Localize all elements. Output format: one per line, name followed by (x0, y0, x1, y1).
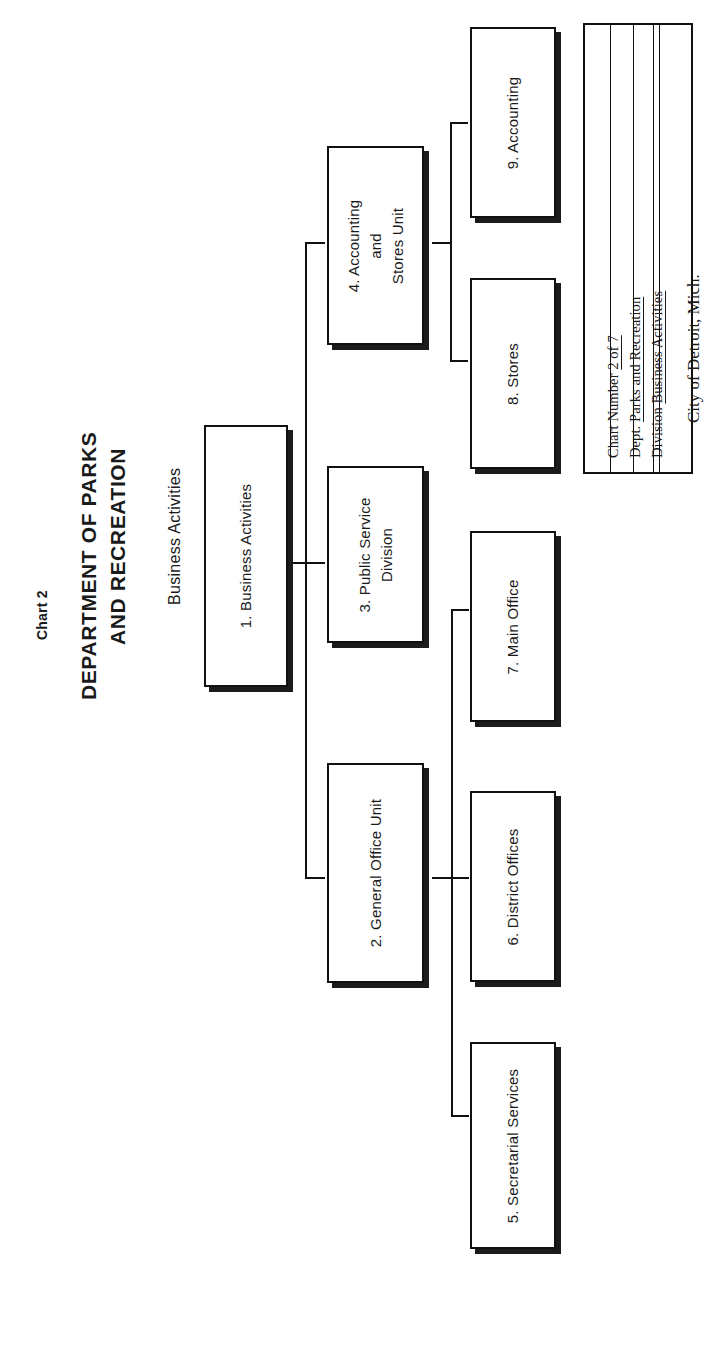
subtitle: Business Activities (166, 468, 184, 605)
connector-node2-stub (432, 877, 453, 879)
legend-dept-row: Dept. Parks and Recreation (627, 297, 644, 458)
connector-to-node-3 (305, 562, 325, 564)
node-7-main-office[interactable]: 7. Main Office (470, 531, 556, 722)
node-9-accounting[interactable]: 9. Accounting (470, 27, 556, 218)
legend-division-value: Business Activities (649, 291, 665, 404)
node-5-text: 5. Secretarial Services (502, 1068, 524, 1223)
connector-trunk-node4 (450, 122, 452, 362)
legend-division-row: Division Business Activities (649, 291, 666, 458)
node-9-line-1: 9. Accounting (502, 76, 524, 169)
node-4-text: 4. Accounting and Stores Unit (343, 199, 408, 292)
connector-trunk-level1 (305, 242, 307, 879)
legend-chart-number-row: Chart Number 2 of 7 (605, 335, 622, 458)
legend-city: City of Detroit, Mich. (684, 274, 704, 423)
connector-to-node-9 (450, 122, 468, 124)
legend-dept-label: Dept. (627, 426, 643, 458)
chart-label: Chart 2 (34, 590, 50, 640)
node-6-line-1: 6. District Offices (502, 828, 524, 945)
legend-dept-value: Parks and Recreation (627, 297, 643, 422)
connector-trunk-node2 (451, 609, 453, 1117)
node-3-line-2: Division (376, 497, 398, 612)
node-1-line-1: 1. Business Activities (235, 484, 257, 628)
node-8-line-1: 8. Stores (502, 343, 524, 405)
node-5-secretarial-services[interactable]: 5. Secretarial Services (470, 1042, 556, 1249)
connector-to-node-4 (305, 242, 325, 244)
legend-block: Chart Number 2 of 7 Dept. Parks and Recr… (583, 23, 693, 474)
node-2-text: 2. General Office Unit (365, 799, 387, 947)
node-5-line-1: 5. Secretarial Services (502, 1068, 524, 1223)
legend-division-label: Division (649, 407, 665, 458)
node-3-public-service-division[interactable]: 3. Public Service Division (327, 466, 424, 643)
connector-to-node-6 (451, 877, 469, 879)
node-1-text: 1. Business Activities (235, 484, 257, 628)
node-3-line-1: 3. Public Service (354, 497, 376, 612)
node-8-text: 8. Stores (502, 343, 524, 405)
connector-node4-stub (432, 242, 452, 244)
connector-to-node-7 (451, 609, 469, 611)
legend-chart-number-label: Chart Number (605, 373, 621, 458)
connector-to-node-8 (450, 360, 468, 362)
connector-to-node-5 (451, 1115, 469, 1117)
legend-chart-number-value: 2 of 7 (605, 335, 621, 369)
connector-to-node-2 (305, 877, 325, 879)
page-title-line-2: AND RECREATION (106, 448, 130, 645)
page-title-line-1: DEPARTMENT OF PARKS (77, 432, 101, 700)
node-6-district-offices[interactable]: 6. District Offices (470, 791, 556, 982)
node-3-text: 3. Public Service Division (354, 497, 398, 612)
node-9-text: 9. Accounting (502, 76, 524, 169)
node-6-text: 6. District Offices (502, 828, 524, 945)
node-8-stores[interactable]: 8. Stores (470, 278, 556, 469)
node-7-text: 7. Main Office (502, 579, 524, 674)
node-4-line-2: and (365, 199, 387, 292)
node-1-business-activities[interactable]: 1. Business Activities (204, 425, 288, 687)
node-7-line-1: 7. Main Office (502, 579, 524, 674)
node-2-line-1: 2. General Office Unit (365, 799, 387, 947)
node-4-accounting-and-stores-unit[interactable]: 4. Accounting and Stores Unit (327, 146, 424, 345)
org-chart-page: Chart 2 DEPARTMENT OF PARKS AND RECREATI… (0, 0, 726, 1363)
node-4-line-1: 4. Accounting (343, 199, 365, 292)
node-2-general-office-unit[interactable]: 2. General Office Unit (327, 763, 424, 983)
node-4-line-3: Stores Unit (386, 199, 408, 292)
